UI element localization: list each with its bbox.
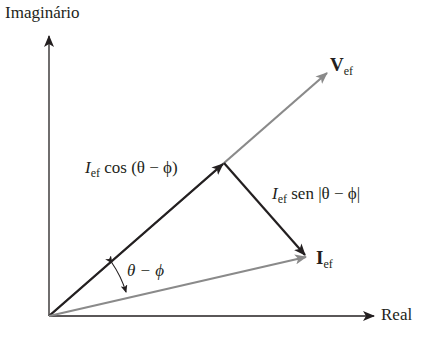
cos-component-vector	[49, 164, 223, 316]
cos-text: cos (θ − ϕ)	[100, 158, 178, 177]
cos-subscript: ef	[91, 166, 100, 180]
sin-component-label: Ief sen |θ − ϕ|	[272, 185, 360, 205]
sin-subscript: ef	[278, 192, 287, 206]
imaginary-axis-label: Imaginário	[5, 4, 80, 21]
voltage-subscript: ef	[344, 64, 353, 78]
sin-text: sen |θ − ϕ|	[287, 184, 360, 203]
angle-arc	[112, 263, 126, 292]
current-subscript: ef	[323, 257, 332, 271]
current-vector	[49, 257, 306, 316]
angle-label: θ − ϕ	[127, 262, 164, 279]
cos-component-label: Ief cos (θ − ϕ)	[85, 159, 178, 179]
diagram-canvas	[0, 0, 429, 342]
sin-component-vector	[224, 163, 305, 255]
real-axis-label: Real	[381, 306, 412, 323]
voltage-label: Vef	[330, 55, 353, 77]
voltage-symbol: V	[330, 54, 344, 75]
current-label: Ief	[316, 248, 333, 270]
phasor-diagram: Imaginário Real Vef Ief Ief cos (θ − ϕ) …	[0, 0, 429, 342]
